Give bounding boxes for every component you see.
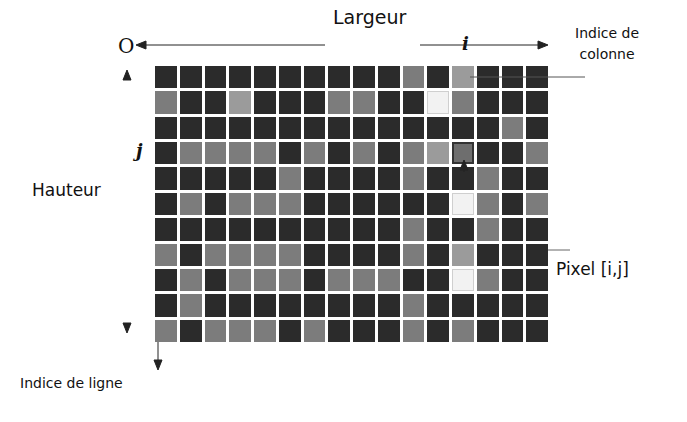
- pixel-cell: [403, 218, 425, 240]
- pixel-cell: [229, 167, 251, 189]
- pixel-cell: [279, 167, 301, 189]
- pixel-cell: [279, 117, 301, 139]
- pixel-cell: [526, 294, 548, 316]
- pixel-cell: [427, 218, 449, 240]
- pixel-cell: [328, 91, 350, 113]
- pixel-cell: [254, 294, 276, 316]
- pixel-cell: [155, 66, 177, 88]
- pixel-cell: [378, 193, 400, 215]
- pixel-cell: [477, 294, 499, 316]
- row-index-symbol: j: [136, 140, 143, 161]
- pixel-cell: [502, 142, 524, 164]
- pixel-cell: [452, 294, 474, 316]
- pixel-cell: [304, 117, 326, 139]
- pixel-cell: [254, 244, 276, 266]
- pixel-cell: [229, 294, 251, 316]
- pixel-cell: [403, 66, 425, 88]
- pixel-cell: [155, 91, 177, 113]
- pixel-cell: [229, 218, 251, 240]
- pixel-cell: [155, 142, 177, 164]
- pixel-cell: [502, 320, 524, 342]
- pixel-cell: [180, 167, 202, 189]
- pixel-cell: [254, 167, 276, 189]
- pixel-cell: [452, 167, 474, 189]
- pixel-cell: [427, 193, 449, 215]
- pixel-cell: [205, 117, 227, 139]
- pixel-cell: [180, 218, 202, 240]
- pixel-cell: [452, 269, 474, 291]
- highlighted-pixel: [452, 142, 474, 164]
- pixel-cell: [180, 66, 202, 88]
- pixel-cell: [279, 294, 301, 316]
- column-index-label-line1: Indice de: [575, 23, 639, 44]
- pixel-cell: [205, 142, 227, 164]
- pixel-cell: [279, 218, 301, 240]
- pixel-cell: [328, 117, 350, 139]
- pixel-cell: [205, 244, 227, 266]
- pixel-cell: [205, 91, 227, 113]
- pixel-cell: [452, 66, 474, 88]
- column-index-label: Indice de colonne: [575, 23, 639, 65]
- pixel-cell: [403, 244, 425, 266]
- pixel-cell: [328, 142, 350, 164]
- width-label: Largeur: [333, 6, 406, 28]
- pixel-cell: [477, 142, 499, 164]
- pixel-cell: [205, 167, 227, 189]
- pixel-cell: [353, 142, 375, 164]
- pixel-cell: [328, 294, 350, 316]
- pixel-cell: [353, 269, 375, 291]
- pixel-cell: [180, 117, 202, 139]
- pixel-cell: [502, 193, 524, 215]
- pixel-cell: [279, 91, 301, 113]
- pixel-cell: [452, 320, 474, 342]
- pixel-cell: [205, 218, 227, 240]
- pixel-cell: [427, 269, 449, 291]
- pixel-cell: [452, 91, 474, 113]
- pixel-cell: [452, 244, 474, 266]
- pixel-cell: [378, 91, 400, 113]
- pixel-cell: [180, 142, 202, 164]
- pixel-cell: [353, 117, 375, 139]
- pixel-cell: [477, 91, 499, 113]
- pixel-cell: [328, 218, 350, 240]
- pixel-cell: [378, 269, 400, 291]
- pixel-cell: [229, 117, 251, 139]
- pixel-cell: [229, 142, 251, 164]
- pixel-cell: [502, 91, 524, 113]
- pixel-cell: [155, 167, 177, 189]
- pixel-cell: [304, 167, 326, 189]
- pixel-cell: [477, 117, 499, 139]
- pixel-cell: [427, 117, 449, 139]
- pixel-cell: [427, 91, 449, 113]
- pixel-cell: [526, 66, 548, 88]
- pixel-cell: [502, 244, 524, 266]
- pixel-cell: [304, 91, 326, 113]
- pixel-cell: [403, 91, 425, 113]
- pixel-cell: [304, 320, 326, 342]
- pixel-cell: [526, 117, 548, 139]
- height-label: Hauteur: [32, 180, 101, 200]
- pixel-cell: [403, 269, 425, 291]
- pixel-cell: [502, 294, 524, 316]
- pixel-cell: [452, 193, 474, 215]
- pixel-cell: [378, 167, 400, 189]
- pixel-cell: [427, 320, 449, 342]
- pixel-cell: [229, 193, 251, 215]
- pixel-cell: [229, 269, 251, 291]
- pixel-cell: [205, 193, 227, 215]
- pixel-cell: [229, 66, 251, 88]
- pixel-cell: [155, 193, 177, 215]
- pixel-cell: [526, 218, 548, 240]
- pixel-cell: [353, 66, 375, 88]
- pixel-cell: [526, 269, 548, 291]
- pixel-cell: [328, 193, 350, 215]
- pixel-cell: [328, 269, 350, 291]
- pixel-cell: [526, 142, 548, 164]
- pixel-cell: [304, 244, 326, 266]
- arrow-left-icon: [136, 41, 146, 49]
- pixel-cell: [502, 269, 524, 291]
- column-index-label-line2: colonne: [575, 44, 639, 65]
- pixel-cell: [353, 320, 375, 342]
- pixel-cell: [477, 244, 499, 266]
- pixel-cell: [378, 66, 400, 88]
